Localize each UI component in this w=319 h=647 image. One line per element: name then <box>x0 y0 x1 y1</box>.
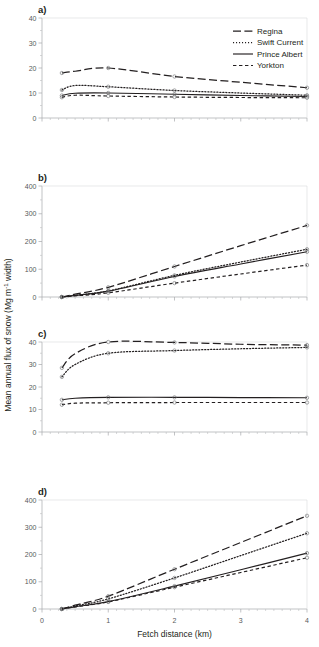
series-line-swift-current <box>62 85 307 95</box>
y-tick-label: 400 <box>25 183 37 190</box>
x-tick-label: 1 <box>106 617 110 624</box>
panel-b: b)0100200300400 <box>25 172 309 301</box>
panel-d: d)010020030040001234 <box>25 486 309 624</box>
legend-label-swift-current: Swift Current <box>257 38 304 47</box>
y-tick-label: 300 <box>25 210 37 217</box>
series-line-regina <box>62 68 307 88</box>
y-tick-label: 10 <box>29 406 37 413</box>
x-tick-label: 2 <box>173 617 177 624</box>
legend-label-yorkton: Yorkton <box>257 61 284 70</box>
y-tick-label: 0 <box>33 429 37 436</box>
svg-text:Mean annual flux of snow (Mg: Mean annual flux of snow (Mg m-1 width) <box>2 258 13 412</box>
y-tick-label: 400 <box>25 497 37 504</box>
series-line-swift-current <box>62 347 307 376</box>
y-tick-label: 0 <box>33 606 37 613</box>
panel-c: c)010203040 <box>29 328 309 436</box>
x-axis-title: Fetch distance (km) <box>137 629 212 639</box>
x-tick-label: 3 <box>239 617 243 624</box>
x-tick-label: 0 <box>40 617 44 624</box>
figure-container: a)010203040b)0100200300400c)010203040d)0… <box>0 0 319 647</box>
snow-flux-figure: a)010203040b)0100200300400c)010203040d)0… <box>0 0 319 647</box>
legend: ReginaSwift CurrentPrince AlbertYorkton <box>233 27 304 71</box>
panel-letter: a) <box>38 4 46 15</box>
y-tick-label: 0 <box>33 115 37 122</box>
y-tick-label: 30 <box>29 40 37 47</box>
panel-letter: b) <box>38 172 47 183</box>
series-line-prince-albert <box>62 397 307 400</box>
y-axis-title: Mean annual flux of snow (Mg m-1 width) <box>2 258 13 412</box>
legend-label-regina: Regina <box>257 27 283 36</box>
data-point-marker <box>173 401 176 404</box>
y-tick-label: 30 <box>29 361 37 368</box>
y-tick-label: 300 <box>25 524 37 531</box>
y-tick-label: 100 <box>25 578 37 585</box>
panel-letter: c) <box>38 328 46 339</box>
series-line-swift-current <box>62 533 307 609</box>
series-line-regina <box>62 341 307 368</box>
y-tick-label: 200 <box>25 238 37 245</box>
y-tick-label: 20 <box>29 384 37 391</box>
y-tick-label: 40 <box>29 15 37 22</box>
y-tick-label: 200 <box>25 551 37 558</box>
series-line-regina <box>62 225 307 297</box>
series-line-prince-albert <box>62 553 307 609</box>
series-line-yorkton <box>62 403 307 405</box>
data-point-marker <box>107 401 110 404</box>
legend-label-prince-albert: Prince Albert <box>257 50 303 59</box>
y-tick-label: 40 <box>29 339 37 346</box>
y-tick-label: 20 <box>29 65 37 72</box>
x-tick-label: 4 <box>305 617 309 624</box>
y-tick-label: 100 <box>25 266 37 273</box>
y-tick-label: 10 <box>29 90 37 97</box>
y-tick-label: 0 <box>33 294 37 301</box>
panel-letter: d) <box>38 486 47 497</box>
